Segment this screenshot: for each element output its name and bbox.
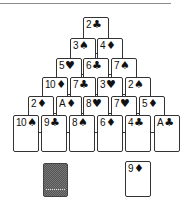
card-rank: A xyxy=(157,117,163,128)
club-icon: ♣ xyxy=(134,116,143,129)
pyramid-card[interactable]: 8♠ xyxy=(69,115,95,152)
card-rank: 8 xyxy=(86,98,91,109)
diamond-icon: ♦ xyxy=(106,116,115,129)
heart-icon: ♥ xyxy=(92,97,101,110)
diamond-icon: ♦ xyxy=(106,39,115,52)
diamond-icon: ♦ xyxy=(56,78,65,91)
card-rank: 5 xyxy=(59,60,64,71)
card-rank: 4 xyxy=(100,40,105,51)
card-back-icon xyxy=(46,189,65,191)
card-rank: 4 xyxy=(128,117,133,128)
club-icon: ♣ xyxy=(92,18,101,31)
top-divider xyxy=(0,3,171,4)
pyramid-card[interactable]: A♣ xyxy=(154,115,180,152)
club-icon: ♣ xyxy=(164,116,173,129)
heart-icon: ♥ xyxy=(106,78,115,91)
spade-icon: ♠ xyxy=(134,78,143,91)
card-rank: 7 xyxy=(73,79,78,90)
pyramid-card[interactable]: 6♦ xyxy=(97,115,123,152)
card-rank: 3 xyxy=(100,79,105,90)
card-rank: 6 xyxy=(100,117,105,128)
spade-icon: ♠ xyxy=(79,39,88,52)
spade-icon: ♠ xyxy=(120,59,129,72)
heart-icon: ♥ xyxy=(120,97,129,110)
waste-pile[interactable]: 9♦ xyxy=(125,161,151,197)
spade-icon: ♠ xyxy=(27,116,36,129)
club-icon: ♣ xyxy=(50,116,59,129)
diamond-icon: ♦ xyxy=(134,162,143,175)
card-rank: 6 xyxy=(86,60,91,71)
heart-icon: ♥ xyxy=(65,59,74,72)
diamond-icon: ♦ xyxy=(148,97,157,110)
club-icon: ♣ xyxy=(79,78,88,91)
pyramid-card[interactable]: 9♣ xyxy=(41,115,67,152)
card-rank: 3 xyxy=(73,40,78,51)
diamond-icon: ♦ xyxy=(66,97,75,110)
card-rank: 5 xyxy=(142,98,147,109)
card-rank: 7 xyxy=(114,60,119,71)
diamond-icon: ♦ xyxy=(37,97,46,110)
card-rank: 10 xyxy=(16,117,26,128)
card-rank: 2 xyxy=(86,19,91,30)
card-rank: 9 xyxy=(128,163,133,174)
pyramid-card[interactable]: 10♠ xyxy=(13,115,39,152)
card-rank: 9 xyxy=(44,117,49,128)
pyramid-card[interactable]: 4♣ xyxy=(125,115,151,152)
card-rank: 2 xyxy=(31,98,36,109)
club-icon: ♣ xyxy=(92,59,101,72)
card-rank: 10 xyxy=(45,79,55,90)
card-rank: A xyxy=(59,98,65,109)
card-rank: 2 xyxy=(128,79,133,90)
stock-pile[interactable] xyxy=(43,163,68,197)
spade-icon: ♠ xyxy=(78,116,87,129)
card-rank: 8 xyxy=(72,117,77,128)
card-rank: 7 xyxy=(114,98,119,109)
